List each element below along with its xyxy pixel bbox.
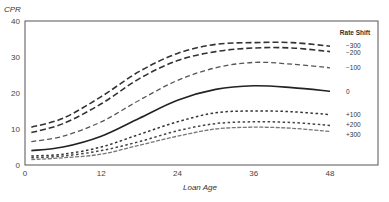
- series-label: +200: [346, 121, 361, 128]
- legend-title: Rate Shift: [340, 29, 371, 36]
- x-tick-label: 48: [326, 169, 335, 178]
- chart-series: [31, 42, 330, 159]
- series-label: −300: [346, 42, 361, 49]
- y-tick-label: 30: [11, 53, 20, 62]
- series-label: +300: [346, 131, 361, 138]
- chart-axes: 010203040012243648CPRLoan Age: [4, 5, 378, 192]
- x-tick-label: 12: [97, 169, 106, 178]
- series-line: [31, 42, 330, 127]
- chart-legend: Rate Shift−300−200−1000+100+200+300: [340, 29, 371, 138]
- series-label: −100: [346, 64, 361, 71]
- y-tick-label: 10: [11, 125, 20, 134]
- y-tick-label: 0: [16, 161, 21, 170]
- y-tick-label: 20: [11, 89, 20, 98]
- series-label: 0: [346, 88, 350, 95]
- x-axis-label: Loan Age: [183, 183, 218, 192]
- x-tick-label: 24: [173, 169, 182, 178]
- series-line: [31, 48, 330, 133]
- y-axis-label: CPR: [4, 5, 21, 14]
- series-label: +100: [346, 111, 361, 118]
- x-tick-label: 0: [23, 169, 28, 178]
- y-tick-label: 40: [11, 17, 20, 26]
- cpr-line-chart: 010203040012243648CPRLoan Age Rate Shift…: [0, 0, 389, 202]
- series-label: −200: [346, 49, 361, 56]
- x-tick-label: 36: [249, 169, 258, 178]
